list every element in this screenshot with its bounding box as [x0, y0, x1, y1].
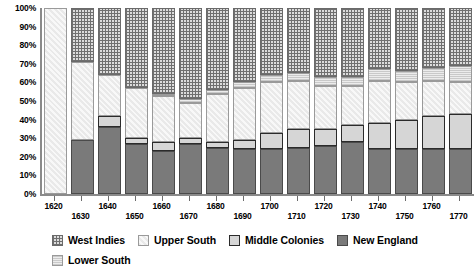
bar-segment [368, 149, 391, 194]
bar-segment [179, 103, 202, 138]
bar-segment [260, 133, 283, 150]
legend-item-label: New England [353, 234, 418, 246]
x-axis-tick-label: 1720 [314, 201, 332, 211]
stacked-bar[interactable] [449, 8, 472, 194]
bar-slot [447, 8, 474, 194]
crosshatch-grid-swatch [52, 235, 63, 246]
x-axis-tick-mark [243, 196, 244, 201]
bar-segment [449, 149, 472, 194]
stacked-bar[interactable] [44, 8, 67, 194]
bar-segment [125, 144, 148, 194]
x-axis-tick-mark [297, 196, 298, 201]
x-tick-slot: 1670 [175, 196, 202, 222]
x-tick-slot: 1740 [364, 196, 391, 222]
x-tick-slot: 1660 [148, 196, 175, 222]
x-axis-tick-mark [189, 196, 190, 201]
stacked-bar[interactable] [179, 8, 202, 194]
x-axis-tick-label: 1640 [98, 201, 116, 211]
stacked-bar[interactable] [395, 8, 418, 194]
bar-segment [233, 149, 256, 194]
bar-segment [287, 81, 310, 129]
x-axis-tick-label: 1760 [422, 201, 440, 211]
x-axis-tick-label: 1690 [233, 211, 251, 221]
legend-item-label: Lower South [68, 254, 130, 266]
bar-segment [449, 114, 472, 149]
bar-segment [152, 142, 175, 151]
bar-segment [368, 123, 391, 149]
bar-segment [422, 149, 445, 194]
bar-segment [368, 69, 391, 80]
y-axis-tick-label: 10% [20, 170, 36, 180]
x-tick-slot: 1770 [445, 196, 472, 222]
stacked-bar[interactable] [314, 8, 337, 194]
bar-slot [285, 8, 312, 194]
x-tick-slot: 1680 [202, 196, 229, 222]
y-axis-tick-label: 90% [20, 22, 36, 32]
bar-segment [233, 140, 256, 149]
chart-legend: West IndiesUpper SouthMiddle ColoniesNew… [52, 233, 464, 267]
x-axis-tick-label: 1730 [341, 211, 359, 221]
stacked-bar[interactable] [287, 8, 310, 194]
bar-slot [366, 8, 393, 194]
bar-segment [314, 77, 337, 86]
bar-segment [395, 8, 418, 71]
bar-segment [314, 129, 337, 146]
legend-item[interactable]: West Indies [52, 233, 125, 247]
bar-slot [69, 8, 96, 194]
x-tick-slot: 1630 [67, 196, 94, 222]
stacked-bar[interactable] [125, 8, 148, 194]
bar-slot [204, 8, 231, 194]
stacked-bar[interactable] [71, 8, 94, 194]
legend-item[interactable]: Middle Colonies [229, 233, 324, 247]
bar-segment [287, 129, 310, 148]
y-axis-tick-label: 30% [20, 133, 36, 143]
bar-segment [341, 125, 364, 142]
bar-segment [179, 8, 202, 99]
bar-segment [341, 86, 364, 125]
bar-segment [287, 73, 310, 80]
solid-dark-swatch [337, 235, 348, 246]
x-axis-tick-mark [351, 196, 352, 201]
bar-segment [422, 81, 445, 116]
bar-segment [206, 148, 229, 195]
x-tick-slot: 1640 [94, 196, 121, 222]
bar-segment [422, 8, 445, 68]
stacked-bar[interactable] [260, 8, 283, 194]
bar-slot [339, 8, 366, 194]
diagonal-hatch-swatch [138, 235, 149, 246]
stacked-bar[interactable] [341, 8, 364, 194]
bar-segment [260, 75, 283, 82]
bar-segment [395, 71, 418, 82]
bar-segment [449, 66, 472, 83]
y-axis-tick-label: 50% [20, 96, 36, 106]
legend-item[interactable]: Upper South [138, 233, 216, 247]
bar-segment [449, 82, 472, 114]
legend-item[interactable]: New England [337, 233, 418, 247]
y-axis-tick-label: 80% [20, 40, 36, 50]
x-axis-tick-label: 1630 [71, 211, 89, 221]
stacked-bar[interactable] [233, 8, 256, 194]
bar-segment [71, 8, 94, 62]
legend-item[interactable]: Lower South [52, 253, 130, 267]
stacked-bar[interactable] [98, 8, 121, 194]
stacked-bar[interactable] [152, 8, 175, 194]
bar-segment [206, 94, 229, 142]
bar-slot [42, 8, 69, 194]
stacked-bar[interactable] [368, 8, 391, 194]
bar-segment [368, 81, 391, 124]
x-axis-tick-label: 1650 [125, 211, 143, 221]
stacked-bar[interactable] [206, 8, 229, 194]
bar-segment [287, 148, 310, 195]
x-axis-tick-mark [81, 196, 82, 201]
x-tick-slot: 1650 [121, 196, 148, 222]
legend-item-label: Middle Colonies [245, 234, 324, 246]
y-axis: 0%10%20%30%40%50%60%70%80%90%100% [0, 8, 40, 194]
x-tick-slot: 1700 [256, 196, 283, 222]
bar-slot [150, 8, 177, 194]
x-tick-slot: 1690 [229, 196, 256, 222]
bar-slot [420, 8, 447, 194]
stacked-bar[interactable] [422, 8, 445, 194]
x-axis-tick-label: 1750 [395, 211, 413, 221]
bar-segment [152, 8, 175, 94]
x-tick-slot: 1760 [418, 196, 445, 222]
